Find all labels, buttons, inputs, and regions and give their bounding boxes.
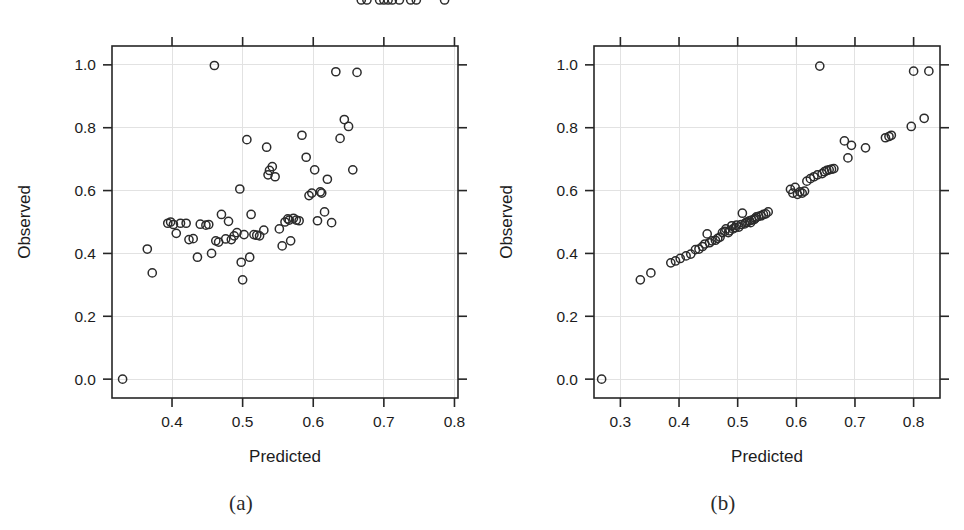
data-point xyxy=(323,175,331,183)
data-point xyxy=(182,219,190,227)
data-point xyxy=(344,122,352,130)
y-tick-label: 0.8 xyxy=(556,119,578,136)
data-point xyxy=(263,143,271,151)
data-point xyxy=(247,210,255,218)
scatter-plot-a: 0.40.50.60.70.80.00.20.40.60.81.0Predict… xyxy=(0,0,482,470)
data-point xyxy=(237,258,245,266)
x-tick-label: 0.8 xyxy=(903,413,925,430)
data-point xyxy=(193,253,201,261)
data-point xyxy=(243,136,251,144)
data-point xyxy=(816,62,824,70)
x-tick-label: 0.8 xyxy=(444,413,466,430)
data-point xyxy=(907,122,915,130)
x-tick-label: 0.4 xyxy=(161,413,183,430)
data-point xyxy=(311,166,319,174)
y-tick-label: 0.4 xyxy=(74,245,96,262)
data-point xyxy=(332,68,340,76)
data-point xyxy=(148,269,156,277)
data-point xyxy=(636,276,644,284)
data-point xyxy=(298,131,306,139)
panel-b-caption: (b) xyxy=(482,491,964,516)
data-point xyxy=(363,0,371,4)
data-point xyxy=(328,219,336,227)
data-point xyxy=(224,217,232,225)
y-tick-label: 1.0 xyxy=(556,56,578,73)
panel-b: 0.30.40.50.60.70.80.00.20.40.60.81.0Pred… xyxy=(482,0,964,530)
data-point xyxy=(217,210,225,218)
data-point xyxy=(302,153,310,161)
data-point xyxy=(210,61,218,69)
y-tick-label: 0.4 xyxy=(556,245,578,262)
y-tick-label: 0.6 xyxy=(74,182,96,199)
y-tick-label: 1.0 xyxy=(74,56,96,73)
data-point xyxy=(861,144,869,152)
x-tick-label: 0.4 xyxy=(668,413,690,430)
data-point xyxy=(260,226,268,234)
y-tick-label: 0.6 xyxy=(556,182,578,199)
data-point xyxy=(246,253,254,261)
x-tick-label: 0.5 xyxy=(727,413,749,430)
y-tick-label: 0.8 xyxy=(74,119,96,136)
data-point xyxy=(336,134,344,142)
data-point xyxy=(440,0,448,4)
data-point xyxy=(920,114,928,122)
x-axis-title: Predicted xyxy=(731,447,803,466)
data-point xyxy=(275,225,283,233)
data-point xyxy=(143,245,151,253)
data-point xyxy=(353,68,361,76)
data-point xyxy=(844,154,852,162)
data-point xyxy=(847,141,855,149)
data-points-group xyxy=(118,0,448,383)
data-point xyxy=(278,242,286,250)
data-points-group xyxy=(598,62,933,383)
data-point xyxy=(738,209,746,217)
data-point xyxy=(172,229,180,237)
x-tick-label: 0.3 xyxy=(610,413,632,430)
x-tick-label: 0.6 xyxy=(786,413,808,430)
data-point xyxy=(412,0,420,4)
plot-frame xyxy=(594,46,940,398)
panel-a-caption: (a) xyxy=(0,491,482,516)
x-tick-label: 0.5 xyxy=(232,413,254,430)
data-point xyxy=(647,269,655,277)
y-tick-label: 0.0 xyxy=(74,371,96,388)
y-tick-label: 0.0 xyxy=(556,371,578,388)
x-tick-label: 0.7 xyxy=(844,413,866,430)
y-axis-title: Observed xyxy=(15,185,34,259)
figure-container: 0.40.50.60.70.80.00.20.40.60.81.0Predict… xyxy=(0,0,964,530)
x-tick-label: 0.7 xyxy=(373,413,395,430)
data-point xyxy=(925,67,933,75)
y-tick-label: 0.2 xyxy=(74,308,96,325)
data-point xyxy=(320,208,328,216)
data-point xyxy=(287,237,295,245)
scatter-plot-b: 0.30.40.50.60.70.80.00.20.40.60.81.0Pred… xyxy=(482,0,964,470)
panel-a: 0.40.50.60.70.80.00.20.40.60.81.0Predict… xyxy=(0,0,482,530)
y-axis-title: Observed xyxy=(497,185,516,259)
x-axis-title: Predicted xyxy=(249,447,321,466)
x-tick-label: 0.6 xyxy=(302,413,324,430)
y-tick-label: 0.2 xyxy=(556,308,578,325)
data-point xyxy=(349,166,357,174)
data-point xyxy=(313,217,321,225)
